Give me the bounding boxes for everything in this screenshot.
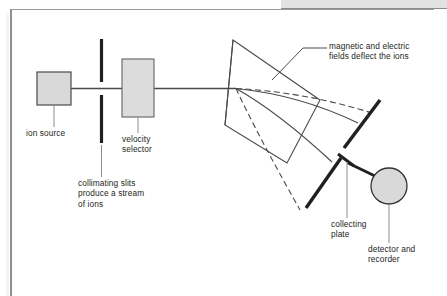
detector-label: detector and recorder	[368, 244, 415, 265]
field-region-plane	[225, 40, 320, 163]
fields-label: magnetic and electric fields deflect the…	[329, 41, 410, 62]
detector-circle	[371, 168, 407, 204]
collimating-slits-label: collimating slits produce a stream of io…	[78, 178, 144, 209]
trajectory-dashed-inner	[236, 89, 300, 211]
velocity-selector-label: velocity selector	[122, 134, 152, 155]
fields-label-leader	[272, 48, 327, 80]
trajectory-solid-inner	[236, 89, 332, 163]
collecting-plate-upper	[344, 100, 380, 148]
detector-connector	[348, 163, 375, 176]
figure-page: ion source velocity selector collimating…	[0, 0, 447, 296]
trajectory-solid-outer	[236, 89, 358, 124]
collecting-plate-label: collecting plate	[331, 219, 367, 240]
collecting-plate-lower	[306, 158, 341, 208]
ion-source-label: ion source	[26, 128, 65, 138]
ion-source-box	[37, 72, 71, 105]
velocity-selector-box	[122, 59, 154, 117]
field-region-left-edge	[225, 40, 233, 125]
